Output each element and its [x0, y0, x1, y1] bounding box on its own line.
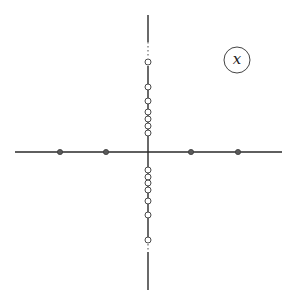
filled-point — [57, 149, 62, 154]
label-text: x — [233, 50, 242, 68]
open-circle-point — [145, 167, 151, 173]
open-circle-point — [145, 198, 151, 204]
open-circle-point — [145, 187, 151, 193]
filled-point — [103, 149, 108, 154]
open-circle-point — [145, 180, 151, 186]
open-circle-point — [145, 212, 151, 218]
open-circle-point — [145, 123, 151, 129]
open-circle-point — [145, 130, 151, 136]
open-circle-point — [145, 109, 151, 115]
filled-point — [235, 149, 240, 154]
open-circle-point — [145, 237, 151, 243]
filled-point — [188, 149, 193, 154]
open-circle-point — [145, 84, 151, 90]
open-circle-point — [145, 98, 151, 104]
open-circle-point — [145, 116, 151, 122]
variable-label: x — [224, 47, 250, 73]
open-circle-point — [145, 59, 151, 65]
open-circle-point — [145, 174, 151, 180]
complex-plane-diagram: x — [0, 0, 291, 302]
